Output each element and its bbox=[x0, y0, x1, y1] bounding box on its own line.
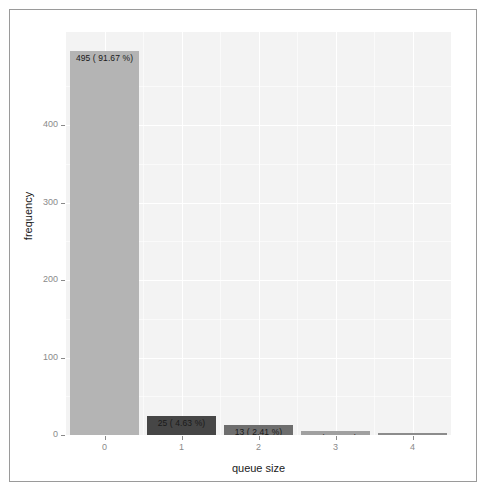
x-tick-label: 0 bbox=[85, 442, 125, 452]
x-tick-mark bbox=[259, 436, 260, 440]
y-tick-label: 100 bbox=[16, 352, 58, 362]
figure-frame: 495 ( 91.67 %)25 ( 4.63 %)13 ( 2.41 %)5 … bbox=[9, 9, 477, 482]
y-tick-mark bbox=[61, 125, 65, 126]
bar-value-label: 5 ( 0.93 %) bbox=[301, 433, 370, 435]
y-tick-label: 0 bbox=[16, 429, 58, 439]
bar-value-label: 13 ( 2.41 %) bbox=[224, 427, 293, 435]
y-tick-mark bbox=[61, 358, 65, 359]
bar[interactable] bbox=[70, 51, 139, 435]
gridline-x-minor bbox=[297, 32, 298, 435]
y-tick-label: 200 bbox=[16, 274, 58, 284]
gridline-x-major bbox=[259, 32, 260, 435]
x-tick-mark bbox=[336, 436, 337, 440]
y-axis-title: frequency bbox=[22, 176, 34, 256]
y-tick-mark bbox=[61, 280, 65, 281]
gridline-x-major bbox=[182, 32, 183, 435]
bar[interactable] bbox=[378, 433, 447, 435]
x-tick-mark bbox=[105, 436, 106, 440]
y-tick-label: 400 bbox=[16, 119, 58, 129]
x-tick-label: 2 bbox=[239, 442, 279, 452]
gridline-x-minor bbox=[220, 32, 221, 435]
x-tick-label: 4 bbox=[393, 442, 433, 452]
gridline-x-major bbox=[413, 32, 414, 435]
bar-value-label: 495 ( 91.67 %) bbox=[70, 53, 139, 63]
y-tick-mark bbox=[61, 435, 65, 436]
x-tick-mark bbox=[182, 436, 183, 440]
gridline-x-minor bbox=[143, 32, 144, 435]
x-tick-label: 3 bbox=[316, 442, 356, 452]
gridline-x-minor bbox=[374, 32, 375, 435]
x-tick-mark bbox=[413, 436, 414, 440]
gridline-x-major bbox=[336, 32, 337, 435]
plot-panel: 495 ( 91.67 %)25 ( 4.63 %)13 ( 2.41 %)5 … bbox=[66, 32, 451, 435]
bar-value-label: 25 ( 4.63 %) bbox=[147, 418, 216, 428]
x-tick-label: 1 bbox=[162, 442, 202, 452]
x-axis-title: queue size bbox=[66, 462, 451, 474]
y-tick-mark bbox=[61, 203, 65, 204]
